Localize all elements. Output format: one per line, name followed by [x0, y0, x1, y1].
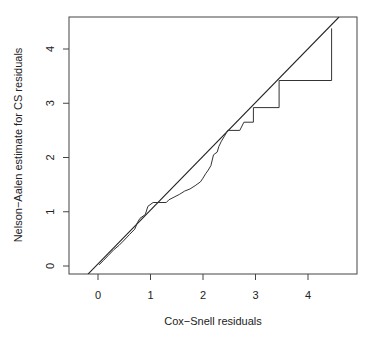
x-tick-label: 1: [147, 289, 153, 301]
nelson-aalen-step-line: [99, 28, 332, 265]
x-tick-label: 4: [305, 289, 311, 301]
reference-line: [88, 17, 339, 274]
y-axis: 01234: [44, 46, 69, 269]
y-axis-label: Nelson−Aalen estimate for CS residuals: [12, 47, 24, 242]
x-tick-label: 0: [95, 289, 101, 301]
y-tick-label: 4: [44, 46, 56, 52]
y-tick-label: 3: [44, 100, 56, 106]
chart-root: 01234 01234 Cox−Snell residuals Nelson−A…: [0, 0, 375, 342]
y-tick-label: 1: [44, 209, 56, 215]
x-axis: 01234: [95, 274, 311, 301]
x-axis-label: Cox−Snell residuals: [164, 315, 262, 327]
y-tick-label: 0: [44, 263, 56, 269]
y-tick-label: 2: [44, 154, 56, 160]
x-tick-label: 3: [252, 289, 258, 301]
x-tick-label: 2: [200, 289, 206, 301]
